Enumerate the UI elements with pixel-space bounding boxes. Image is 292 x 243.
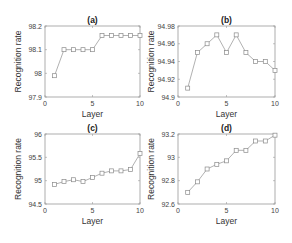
subplot-a: 97.99898.198.20510(a)LayerRecognition ra… — [13, 15, 144, 119]
data-point-marker — [195, 180, 199, 184]
y-tick-label: 98 — [34, 70, 42, 77]
y-tick-label: 93 — [167, 154, 175, 161]
data-point-marker — [110, 33, 114, 37]
x-tick-label: 0 — [43, 100, 47, 107]
data-line — [188, 135, 275, 192]
y-axis-label: Recognition rate — [146, 30, 156, 92]
data-point-marker — [244, 51, 248, 55]
data-point-marker — [205, 42, 209, 46]
data-point-marker — [100, 171, 104, 175]
data-point-marker — [72, 48, 76, 52]
data-point-marker — [254, 60, 258, 64]
y-tick-label: 92.8 — [161, 177, 175, 184]
data-line — [188, 35, 275, 88]
data-point-marker — [53, 74, 57, 78]
x-axis-label: Layer — [216, 109, 237, 119]
x-axis-label: Layer — [216, 216, 237, 226]
data-point-marker — [225, 51, 229, 55]
x-tick-label: 5 — [225, 100, 229, 107]
y-tick-label: 92.6 — [161, 201, 175, 208]
data-point-marker — [186, 86, 190, 90]
data-point-marker — [225, 159, 229, 163]
data-point-marker — [62, 180, 66, 184]
data-point-marker — [91, 48, 95, 52]
y-tick-label: 94.98 — [157, 23, 175, 30]
data-point-marker — [263, 139, 267, 143]
x-tick-label: 10 — [271, 100, 279, 107]
data-point-marker — [244, 148, 248, 152]
y-tick-label: 98.2 — [28, 23, 42, 30]
x-tick-label: 5 — [91, 207, 95, 214]
data-point-marker — [110, 169, 114, 173]
subplot-c: 94.59595.5960510(c)LayerRecognition rate — [13, 123, 144, 226]
y-tick-label: 94.92 — [157, 76, 175, 83]
subplot-title: (c) — [87, 123, 98, 133]
data-point-marker — [100, 33, 104, 37]
data-point-marker — [91, 175, 95, 179]
y-axis-label: Recognition rate — [13, 138, 23, 200]
axes-frame — [45, 134, 140, 204]
y-tick-label: 98.1 — [28, 46, 42, 53]
data-point-marker — [138, 152, 142, 156]
y-tick-label: 95 — [34, 177, 42, 184]
data-point-marker — [138, 33, 142, 37]
x-tick-label: 10 — [136, 100, 144, 107]
data-point-marker — [62, 48, 66, 52]
y-tick-label: 94.94 — [157, 58, 175, 65]
subplot-b: 94.994.9294.9494.9694.980510(b)LayerReco… — [146, 15, 279, 119]
y-tick-label: 95.5 — [28, 154, 42, 161]
x-axis-label: Layer — [82, 216, 103, 226]
subplot-title: (b) — [221, 15, 232, 25]
y-tick-label: 94.96 — [157, 40, 175, 47]
y-axis-label: Recognition rate — [146, 138, 156, 200]
x-tick-label: 0 — [176, 207, 180, 214]
data-point-marker — [195, 51, 199, 55]
subplot-d: 92.692.89393.20510(d)LayerRecognition ra… — [146, 123, 279, 226]
x-axis-label: Layer — [82, 109, 103, 119]
x-tick-label: 5 — [225, 207, 229, 214]
data-point-marker — [72, 178, 76, 182]
subplot-title: (d) — [221, 123, 232, 133]
data-point-marker — [215, 162, 219, 166]
data-point-marker — [129, 33, 133, 37]
x-tick-label: 5 — [91, 100, 95, 107]
data-point-marker — [81, 48, 85, 52]
x-tick-label: 0 — [43, 207, 47, 214]
data-line — [55, 154, 141, 185]
data-point-marker — [119, 33, 123, 37]
data-point-marker — [119, 169, 123, 173]
x-tick-label: 0 — [176, 100, 180, 107]
data-point-marker — [205, 167, 209, 171]
data-point-marker — [234, 33, 238, 37]
x-tick-label: 10 — [136, 207, 144, 214]
data-point-marker — [215, 33, 219, 37]
figure-canvas: 97.99898.198.20510(a)LayerRecognition ra… — [0, 0, 292, 243]
data-point-marker — [186, 190, 190, 194]
data-line — [55, 36, 141, 76]
y-tick-label: 96 — [34, 131, 42, 138]
data-point-marker — [234, 148, 238, 152]
data-point-marker — [273, 133, 277, 137]
y-tick-label: 94.9 — [161, 94, 175, 101]
y-tick-label: 97.9 — [28, 94, 42, 101]
subplot-title: (a) — [87, 15, 98, 25]
data-point-marker — [273, 68, 277, 72]
y-tick-label: 93.2 — [161, 131, 175, 138]
data-point-marker — [129, 167, 133, 171]
y-axis-label: Recognition rate — [13, 30, 23, 92]
data-point-marker — [263, 60, 267, 64]
y-tick-label: 94.5 — [28, 201, 42, 208]
data-point-marker — [81, 180, 85, 184]
x-tick-label: 10 — [271, 207, 279, 214]
data-point-marker — [53, 182, 57, 186]
data-point-marker — [254, 139, 258, 143]
axes-frame — [178, 134, 275, 204]
